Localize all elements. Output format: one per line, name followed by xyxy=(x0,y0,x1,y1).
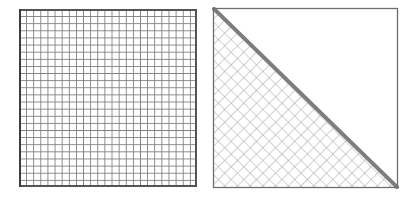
figure-root xyxy=(0,0,417,200)
left-panel-grid-fill xyxy=(20,10,196,186)
left-mesh-panel xyxy=(19,9,197,187)
right-mesh-panel xyxy=(212,7,399,189)
right-mesh-svg xyxy=(212,7,399,189)
left-mesh-svg xyxy=(19,9,197,187)
